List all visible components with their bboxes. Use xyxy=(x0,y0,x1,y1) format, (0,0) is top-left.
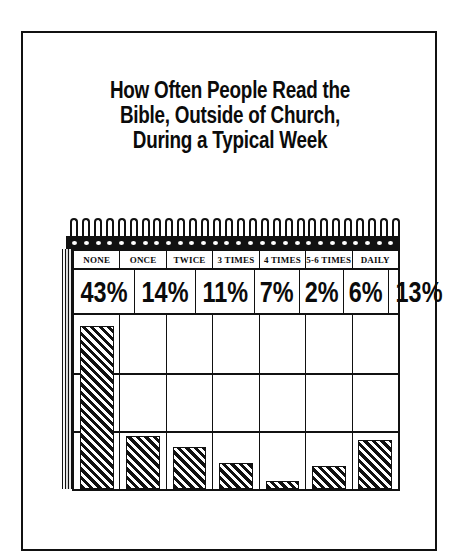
binder-hole xyxy=(224,241,229,245)
spiral-loop xyxy=(297,218,305,238)
spiral-loop xyxy=(285,218,293,238)
bar xyxy=(80,326,114,489)
percent-cell: 43% xyxy=(74,270,135,313)
spiral-loop xyxy=(368,218,376,238)
bar-column xyxy=(353,315,398,489)
binder-hole xyxy=(318,241,323,245)
spiral-loop xyxy=(249,218,257,238)
binder-hole xyxy=(365,241,370,245)
bar xyxy=(312,466,346,489)
percent-cell: 11% xyxy=(196,270,255,313)
category-label: TWICE xyxy=(174,255,206,265)
spiral-loop xyxy=(273,218,281,238)
binder-hole xyxy=(143,241,148,245)
binder-hole xyxy=(353,241,358,245)
category-label: ONCE xyxy=(130,255,157,265)
bar-column xyxy=(167,315,213,489)
bar xyxy=(126,436,160,489)
bar-column xyxy=(213,315,259,489)
binder-hole xyxy=(330,241,335,245)
spiral-loop xyxy=(142,218,150,238)
spiral-loop xyxy=(308,218,316,238)
binder-hole xyxy=(236,241,241,245)
spiral-binding xyxy=(70,216,400,238)
spiral-loop xyxy=(165,218,173,238)
binder-hole xyxy=(72,241,77,245)
spiral-loop xyxy=(82,218,90,238)
category-header-cell: DAILY xyxy=(353,251,398,268)
spiral-loop xyxy=(153,218,161,238)
category-header-cell: 3 TIMES xyxy=(213,251,259,268)
bar-column xyxy=(120,315,166,489)
spiral-loop xyxy=(320,218,328,238)
spiral-loop xyxy=(237,218,245,238)
category-header-row: NONEONCETWICE3 TIMES4 TIMES5-6 TIMESDAIL… xyxy=(74,251,398,270)
title-line-1: How Often People Read the xyxy=(74,78,386,103)
binder-hole xyxy=(119,241,124,245)
spiral-loop xyxy=(201,218,209,238)
spiral-loop xyxy=(213,218,221,238)
binder-hole xyxy=(377,241,382,245)
stack-line xyxy=(62,249,63,489)
page-title: How Often People Read the Bible, Outside… xyxy=(40,78,420,153)
spiral-loop xyxy=(177,218,185,238)
binder-hole xyxy=(107,241,112,245)
percent-cell: 13% xyxy=(389,270,449,313)
spiral-loop xyxy=(70,218,78,238)
spiral-loop xyxy=(130,218,138,238)
spiral-loop xyxy=(380,218,388,238)
binder-hole xyxy=(342,241,347,245)
binder-hole xyxy=(96,241,101,245)
binder-hole xyxy=(271,241,276,245)
bar xyxy=(219,463,253,489)
category-label: DAILY xyxy=(361,255,390,265)
spiral-loop xyxy=(356,218,364,238)
chart-sheet: NONEONCETWICE3 TIMES4 TIMES5-6 TIMESDAIL… xyxy=(72,249,400,491)
category-header-cell: 5-6 TIMES xyxy=(306,251,352,268)
binder-hole xyxy=(306,241,311,245)
bar-column xyxy=(74,315,120,489)
percent-value: 14% xyxy=(142,277,189,307)
category-header-cell: ONCE xyxy=(120,251,166,268)
spiral-loop xyxy=(261,218,269,238)
percent-value: 43% xyxy=(81,277,128,307)
title-line-2: Bible, Outside of Church, xyxy=(74,103,386,128)
spiral-loop xyxy=(118,218,126,238)
binder-hole xyxy=(166,241,171,245)
percent-value: 11% xyxy=(203,277,249,307)
bar xyxy=(266,481,300,489)
percent-cell: 14% xyxy=(135,270,196,313)
percent-value: 13% xyxy=(395,277,442,307)
percent-cell: 2% xyxy=(300,270,344,313)
category-header-cell: TWICE xyxy=(167,251,213,268)
category-label: 4 TIMES xyxy=(264,255,301,265)
binder-hole xyxy=(283,241,288,245)
stack-line xyxy=(65,249,66,489)
stack-line xyxy=(68,249,69,489)
binder-hole xyxy=(154,241,159,245)
percent-value: 2% xyxy=(305,277,339,307)
bar-column xyxy=(260,315,306,489)
plot-area xyxy=(74,315,398,489)
binder-bar xyxy=(66,236,400,249)
spiral-loop xyxy=(392,218,400,238)
bar xyxy=(358,440,392,489)
binder-hole xyxy=(84,241,89,245)
category-header-cell: NONE xyxy=(74,251,120,268)
percent-value-row: 43%14%11%7%2%6%13% xyxy=(74,270,398,315)
category-label: NONE xyxy=(83,255,110,265)
percent-cell: 6% xyxy=(344,270,388,313)
spiral-loop xyxy=(344,218,352,238)
binder-hole xyxy=(248,241,253,245)
percent-value: 6% xyxy=(349,277,383,307)
category-label: 3 TIMES xyxy=(217,255,254,265)
binder-hole xyxy=(213,241,218,245)
spiral-loop xyxy=(106,218,114,238)
spiral-loop xyxy=(225,218,233,238)
percent-cell: 7% xyxy=(255,270,299,313)
category-label: 5-6 TIMES xyxy=(306,255,351,265)
title-line-3: During a Typical Week xyxy=(74,128,386,153)
spiral-notepad-chart: NONEONCETWICE3 TIMES4 TIMES5-6 TIMESDAIL… xyxy=(62,216,400,494)
bar xyxy=(173,447,207,489)
bar-column xyxy=(306,315,352,489)
